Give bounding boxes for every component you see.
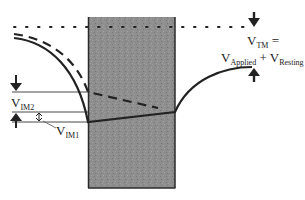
label-vtm: VTM =: [247, 34, 279, 50]
vtm-main: V: [247, 33, 256, 48]
label-vim1: VIM1: [56, 124, 79, 140]
applied-sub: Applied: [230, 58, 256, 67]
resting-sub: Resting: [279, 58, 303, 67]
resting-main: V: [270, 50, 279, 65]
arrow-down-left-icon: [10, 75, 22, 91]
applied-main: V: [221, 50, 230, 65]
arrow-up-right-icon: [248, 68, 260, 82]
vim2-main: V: [11, 95, 20, 110]
label-vim2: VIM2: [11, 96, 34, 112]
double-arrow-vim1-icon: [36, 113, 42, 121]
plus-sign: +: [256, 50, 270, 65]
vtm-sub: TM: [256, 41, 268, 50]
arrow-down-right-icon: [248, 12, 260, 27]
label-applied-plus-resting: VApplied + VResting: [221, 51, 304, 67]
vtm-equals: =: [268, 33, 279, 48]
vim2-sub: IM2: [20, 103, 34, 112]
diagram-canvas: [0, 0, 305, 200]
vim1-sub: IM1: [65, 131, 79, 140]
membrane-slab: [88, 17, 176, 188]
arrow-up-left-icon: [10, 113, 22, 128]
vim1-main: V: [56, 123, 65, 138]
